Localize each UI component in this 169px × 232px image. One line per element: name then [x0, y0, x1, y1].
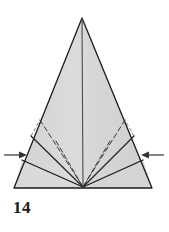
- origami-diagram: 14: [0, 0, 169, 232]
- step-number-label: 14: [13, 199, 31, 216]
- right-fold-arrow-head: [141, 152, 149, 159]
- right-fold-arrow: [141, 152, 164, 159]
- left-fold-arrow: [4, 152, 27, 159]
